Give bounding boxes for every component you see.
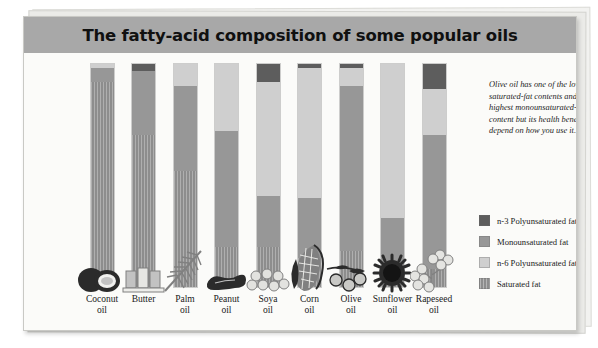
chart-legend: n-3 Polyunsaturated fatMonounsaturated f… bbox=[479, 210, 577, 294]
legend-swatch-n3-icon bbox=[479, 215, 490, 226]
bar-segment-sat bbox=[298, 258, 321, 287]
legend-swatch-n6-icon bbox=[479, 257, 490, 268]
stacked-bar[interactable] bbox=[422, 63, 447, 288]
legend-swatch-mono-icon bbox=[479, 236, 490, 247]
bar-column[interactable] bbox=[256, 63, 281, 288]
stacked-bar[interactable] bbox=[256, 63, 281, 288]
bar-segment-mono bbox=[91, 68, 114, 81]
x-axis-label-line1: Corn bbox=[300, 294, 319, 304]
bar-segment-sat bbox=[340, 251, 363, 287]
x-axis-label-line1: Peanut bbox=[214, 294, 240, 304]
bar-segment-n3 bbox=[257, 64, 280, 82]
stacked-bar[interactable] bbox=[131, 63, 156, 288]
stacked-bar[interactable] bbox=[339, 63, 364, 288]
x-axis-labels: CoconutoilButterPalmoilPeanutoilSoyaoilC… bbox=[54, 294, 466, 328]
bar-segment-sat bbox=[423, 269, 446, 287]
x-axis-label-line1: Palm bbox=[175, 294, 195, 304]
bar-segment-mono bbox=[215, 131, 238, 247]
bar-segment-n3 bbox=[423, 64, 446, 89]
bar-column[interactable] bbox=[297, 63, 322, 288]
chart-title-bar: The fatty-acid composition of some popul… bbox=[24, 17, 576, 53]
bar-segment-sat bbox=[215, 247, 238, 287]
bar-segment-n6 bbox=[215, 64, 238, 131]
bar-column[interactable] bbox=[339, 63, 364, 288]
bar-segment-mono bbox=[257, 196, 280, 247]
bar-segment-n6 bbox=[174, 64, 197, 86]
bar-segment-mono bbox=[423, 135, 446, 269]
x-axis-label-line1: Butter bbox=[132, 294, 156, 304]
bar-segment-n6 bbox=[423, 89, 446, 136]
chart-card: The fatty-acid composition of some popul… bbox=[23, 16, 577, 331]
x-axis-label: Rapeseedoil bbox=[406, 294, 462, 316]
legend-item-label: n-6 Polyunsaturated fat bbox=[497, 258, 577, 268]
stacked-bar[interactable] bbox=[297, 63, 322, 288]
bar-segment-sat bbox=[257, 247, 280, 287]
legend-item-label: n-3 Polyunsaturated fat bbox=[497, 216, 577, 226]
legend-item-label: Saturated fat bbox=[497, 279, 541, 289]
legend-item-label: Monounsaturated fat bbox=[497, 237, 568, 247]
bar-segment-mono bbox=[340, 86, 363, 251]
bar-segment-n3 bbox=[132, 64, 155, 71]
x-axis-label-line1: Rapeseed bbox=[416, 294, 452, 304]
bar-column[interactable] bbox=[422, 63, 447, 288]
legend-item-mono[interactable]: Monounsaturated fat bbox=[479, 231, 577, 252]
bar-column[interactable] bbox=[380, 63, 405, 288]
bar-segment-n6 bbox=[381, 64, 404, 218]
legend-swatch-sat-icon bbox=[479, 278, 490, 289]
bar-segment-mono bbox=[381, 218, 404, 263]
infographic-screenshot: The fatty-acid composition of some popul… bbox=[0, 0, 598, 348]
bar-segment-mono bbox=[174, 86, 197, 171]
legend-item-n3[interactable]: n-3 Polyunsaturated fat bbox=[479, 210, 577, 231]
bar-segment-n6 bbox=[298, 68, 321, 197]
bar-column[interactable] bbox=[131, 63, 156, 288]
stacked-bar[interactable] bbox=[173, 63, 198, 288]
page-title: The fatty-acid composition of some popul… bbox=[82, 26, 517, 45]
bar-segment-sat bbox=[132, 135, 155, 287]
bar-segment-sat bbox=[381, 262, 404, 287]
bar-segment-n6 bbox=[340, 68, 363, 86]
legend-item-n6[interactable]: n-6 Polyunsaturated fat bbox=[479, 252, 577, 273]
bar-column[interactable] bbox=[214, 63, 239, 288]
bar-column[interactable] bbox=[173, 63, 198, 288]
annotation-text: Olive oil has one of the lowest saturate… bbox=[489, 79, 577, 137]
stacked-bar[interactable] bbox=[380, 63, 405, 288]
legend-item-sat[interactable]: Saturated fat bbox=[479, 273, 577, 294]
x-axis-label-line2: oil bbox=[406, 305, 462, 316]
bar-segment-n6 bbox=[257, 82, 280, 196]
bar-segment-sat bbox=[91, 82, 114, 287]
bar-segment-sat bbox=[174, 171, 197, 287]
plot-area: CoconutoilButterPalmoilPeanutoilSoyaoilC… bbox=[24, 53, 576, 330]
x-axis-label-line2: oil bbox=[74, 305, 130, 316]
x-axis-label-line1: Coconut bbox=[86, 294, 118, 304]
bar-column[interactable] bbox=[90, 63, 115, 288]
bar-segment-mono bbox=[298, 198, 321, 258]
stacked-bar-group bbox=[54, 63, 466, 288]
stacked-bar[interactable] bbox=[214, 63, 239, 288]
bar-segment-mono bbox=[132, 71, 155, 136]
x-axis-label-line1: Olive bbox=[340, 294, 361, 304]
stacked-bar[interactable] bbox=[90, 63, 115, 288]
x-axis-label-line1: Soya bbox=[259, 294, 278, 304]
